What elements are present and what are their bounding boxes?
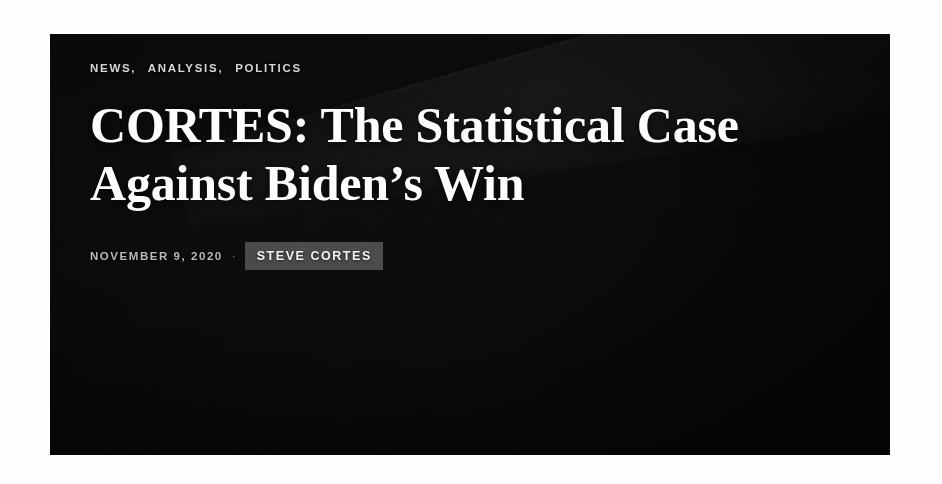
byline-separator: · (223, 250, 245, 262)
article-category-list: NEWS, ANALYSIS, POLITICS (90, 62, 860, 74)
article-headline[interactable]: CORTES: The Statistical Case Against Bid… (90, 96, 830, 212)
category-separator-2: , (218, 62, 230, 74)
category-link-politics[interactable]: POLITICS (235, 62, 302, 74)
article-page: NEWS, ANALYSIS, POLITICS CORTES: The Sta… (0, 0, 942, 484)
author-name-badge[interactable]: STEVE CORTES (245, 242, 383, 270)
category-separator-1: , (131, 62, 143, 74)
article-hero-card[interactable]: NEWS, ANALYSIS, POLITICS CORTES: The Sta… (50, 34, 890, 455)
publish-date: NOVEMBER 9, 2020 (90, 250, 223, 262)
article-byline: NOVEMBER 9, 2020 · STEVE CORTES (90, 242, 860, 270)
hero-content: NEWS, ANALYSIS, POLITICS CORTES: The Sta… (90, 62, 860, 270)
category-link-analysis[interactable]: ANALYSIS (148, 62, 219, 74)
category-link-news[interactable]: NEWS (90, 62, 131, 74)
